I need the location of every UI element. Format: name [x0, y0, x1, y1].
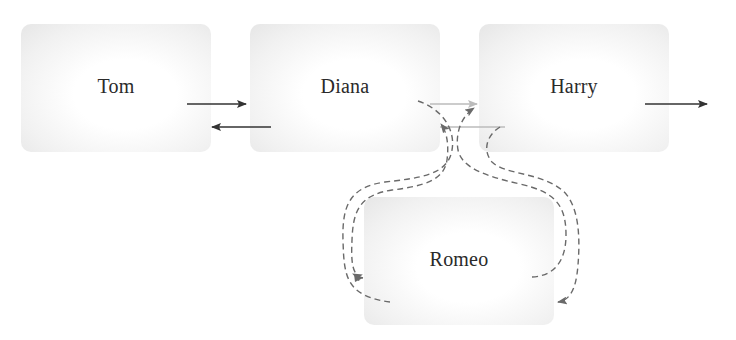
node-harry: Harry: [479, 24, 669, 152]
node-label-tom: Tom: [21, 75, 211, 98]
node-tom: Tom: [21, 24, 211, 152]
node-label-harry: Harry: [479, 75, 669, 98]
node-romeo: Romeo: [364, 197, 554, 325]
node-label-diana: Diana: [250, 75, 440, 98]
arrowhead-into-romeo-left: [354, 274, 363, 282]
node-diana: Diana: [250, 24, 440, 152]
node-label-romeo: Romeo: [364, 248, 554, 271]
